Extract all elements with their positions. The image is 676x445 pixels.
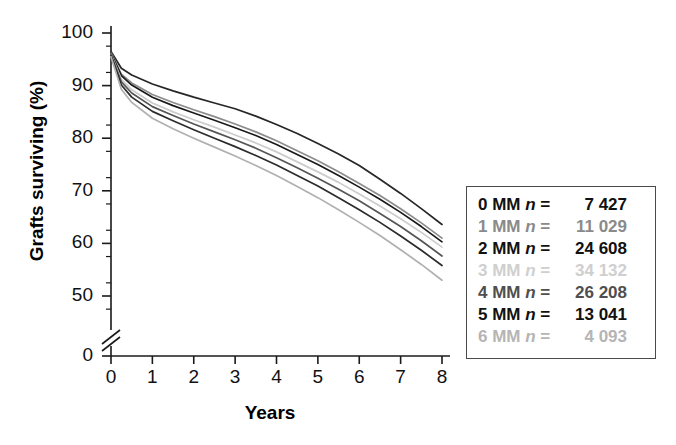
axes-group xyxy=(102,26,450,364)
x-axis-title: Years xyxy=(180,402,360,424)
curves-group xyxy=(111,51,442,280)
legend-n-value: 4 093 xyxy=(555,326,627,348)
legend-row: 0 MM n = 7 427 xyxy=(467,194,655,216)
x-tick-label: 2 xyxy=(182,366,206,388)
legend-n-symbol: n xyxy=(525,327,535,346)
y-tick-label: 90 xyxy=(45,74,93,96)
legend-box: 0 MM n = 7 4271 MM n = 11 0292 MM n = 24… xyxy=(466,186,656,359)
x-tick-label: 4 xyxy=(265,366,289,388)
legend-key-label: 6 MM xyxy=(478,327,521,346)
legend-n-symbol: n xyxy=(525,195,535,214)
y-tick-label: 60 xyxy=(45,231,93,253)
legend-equals-sign: = xyxy=(540,283,550,302)
legend-equals-sign: = xyxy=(540,195,550,214)
legend-key-label: 5 MM xyxy=(478,305,521,324)
legend-n-symbol: n xyxy=(525,239,535,258)
legend-n-value: 26 208 xyxy=(555,282,627,304)
x-tick-label: 7 xyxy=(389,366,413,388)
x-tick-label: 1 xyxy=(140,366,164,388)
y-tick-label: 80 xyxy=(45,126,93,148)
x-tick-label: 8 xyxy=(430,366,454,388)
legend-n-value: 11 029 xyxy=(555,216,627,238)
legend-n-value: 13 041 xyxy=(555,304,627,326)
x-tick-label: 6 xyxy=(347,366,371,388)
legend-equals-sign: = xyxy=(540,305,550,324)
y-tick-label: 0 xyxy=(45,344,93,366)
legend-n-value: 7 427 xyxy=(555,194,627,216)
x-tick-label: 3 xyxy=(223,366,247,388)
legend-equals-sign: = xyxy=(540,239,550,258)
y-tick-label: 100 xyxy=(45,21,93,43)
y-tick-label: 70 xyxy=(45,179,93,201)
legend-n-symbol: n xyxy=(525,217,535,236)
curve-series-0 xyxy=(111,51,442,224)
y-tick-label: 50 xyxy=(45,284,93,306)
legend-row: 5 MM n = 13 041 xyxy=(467,304,655,326)
legend-equals-sign: = xyxy=(540,217,550,236)
legend-n-value: 24 608 xyxy=(555,238,627,260)
curve-series-4 xyxy=(111,55,442,256)
curve-series-3 xyxy=(111,54,442,247)
x-tick-label: 0 xyxy=(99,366,123,388)
x-tick-label: 5 xyxy=(306,366,330,388)
legend-row: 6 MM n = 4 093 xyxy=(467,326,655,348)
y-axis-title: Grafts surviving (%) xyxy=(26,56,48,286)
legend-key-label: 0 MM xyxy=(478,195,521,214)
legend-row: 2 MM n = 24 608 xyxy=(467,238,655,260)
legend-row: 1 MM n = 11 029 xyxy=(467,216,655,238)
legend-n-symbol: n xyxy=(525,305,535,324)
legend-n-symbol: n xyxy=(525,283,535,302)
legend-key-label: 1 MM xyxy=(478,217,521,236)
legend-n-value: 34 132 xyxy=(555,260,627,282)
legend-key-label: 2 MM xyxy=(478,239,521,258)
curve-series-6 xyxy=(111,57,442,281)
axis-break-slash-1 xyxy=(102,330,120,344)
legend-key-label: 3 MM xyxy=(478,261,521,280)
legend-row: 4 MM n = 26 208 xyxy=(467,282,655,304)
legend-equals-sign: = xyxy=(540,327,550,346)
legend-row: 3 MM n = 34 132 xyxy=(467,260,655,282)
legend-n-symbol: n xyxy=(525,261,535,280)
legend-key-label: 4 MM xyxy=(478,283,521,302)
figure-container: 10090807060500 012345678 Grafts survivin… xyxy=(0,0,676,445)
legend-equals-sign: = xyxy=(540,261,550,280)
